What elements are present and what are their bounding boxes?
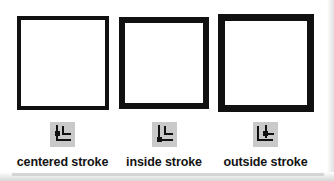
page-edge-bottom-line <box>12 173 324 176</box>
swatch-inside-wrap <box>114 12 214 113</box>
stroke-option-inside: inside stroke <box>114 12 215 169</box>
swatch-centered-stroke <box>17 16 109 110</box>
stroke-alignment-figure: centered stroke <box>0 0 326 172</box>
swatch-outside-stroke <box>218 14 314 112</box>
stroke-option-label: inside stroke <box>126 155 202 169</box>
stroke-align-outside-icon[interactable] <box>253 122 278 147</box>
figure-page: centered stroke <box>0 0 334 181</box>
stroke-option-outside: outside stroke <box>215 12 316 169</box>
swatch-inside-stroke <box>119 17 209 109</box>
swatch-centered-wrap <box>13 12 113 113</box>
stroke-align-inside-icon[interactable] <box>152 122 177 147</box>
stroke-align-center-icon[interactable] <box>50 122 75 147</box>
stroke-option-centered: centered stroke <box>12 12 113 169</box>
stroke-option-label: centered stroke <box>17 155 109 169</box>
swatch-outside-wrap <box>216 12 316 113</box>
stroke-option-label: outside stroke <box>223 155 307 169</box>
page-edge-right <box>327 0 334 181</box>
